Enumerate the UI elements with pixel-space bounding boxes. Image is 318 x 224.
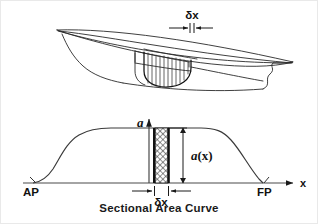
ax-dimension [168, 128, 187, 184]
hull-long-line-aft [191, 67, 263, 81]
fp-tick [264, 177, 269, 183]
sectional-area-plot: x a AP FP a(x) [23, 115, 307, 208]
hull-break-wavy-line [263, 63, 273, 89]
hull-side-outline [62, 34, 123, 83]
plot-deltax-dimension [132, 186, 191, 196]
hull-deck-inner-line [59, 31, 292, 63]
ship-hull-perspective [57, 30, 293, 91]
x-axis-label: x [300, 177, 307, 189]
hull-deltax-dimension [169, 23, 213, 33]
sectional-area-curve [33, 128, 263, 183]
sectional-area-curve-figure: δx x a AP FP [0, 0, 318, 224]
hull-deltax-label: δx [185, 9, 199, 21]
ax-label: a(x) [191, 148, 213, 163]
hull-bottom-line [123, 83, 263, 91]
ap-label: AP [23, 186, 39, 198]
fp-label: FP [257, 186, 272, 198]
figure-caption: Sectional Area Curve [1, 202, 317, 214]
area-strip-hatch-2 [155, 128, 168, 183]
figure-canvas: δx x a AP FP [1, 1, 318, 224]
